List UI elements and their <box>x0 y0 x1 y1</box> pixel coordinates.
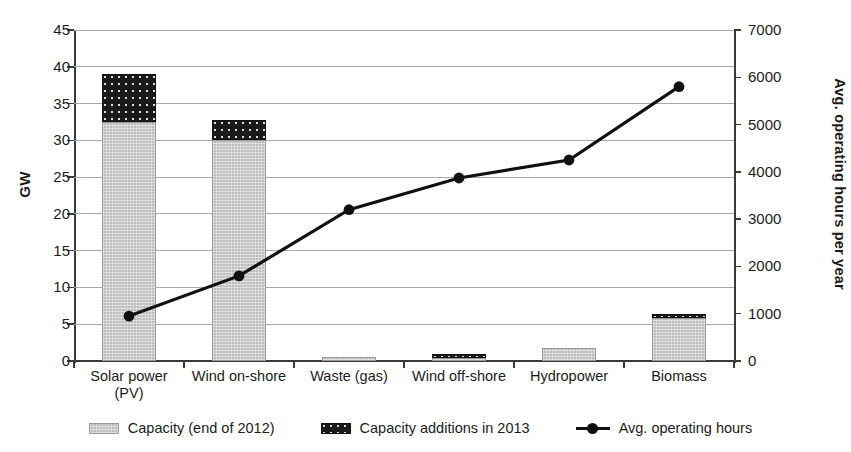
x-tick <box>513 361 515 368</box>
y-tick-right <box>734 218 741 220</box>
x-axis-category-label-line: Biomass <box>618 368 740 385</box>
x-axis-category-label-line: Solar power <box>68 368 190 385</box>
x-axis-category-label-line: Waste (gas) <box>288 368 410 385</box>
legend-swatch-add-icon <box>321 423 351 434</box>
x-tick <box>733 361 735 368</box>
x-tick <box>623 361 625 368</box>
y-tick-label-right: 6000 <box>748 69 851 84</box>
x-axis-category-label: Waste (gas) <box>288 368 410 385</box>
line-marker <box>344 204 355 215</box>
y-tick-label-left: 0 <box>0 353 70 368</box>
y-tick-right <box>734 29 741 31</box>
x-axis-category-label-line: Wind off-shore <box>398 368 520 385</box>
y-tick-right <box>734 77 741 79</box>
legend-swatch-line-icon <box>576 422 610 434</box>
chart-legend: Capacity (end of 2012)Capacity additions… <box>0 415 841 441</box>
y-tick-label-right: 7000 <box>748 22 851 37</box>
legend-swatch-base-icon <box>89 423 119 434</box>
plot-area: 051015202530354045 010002000300040005000… <box>74 30 734 361</box>
y-tick-label-left: 5 <box>0 316 70 331</box>
y-tick-label-right: 0 <box>748 353 851 368</box>
x-axis-category-label: Wind on-shore <box>178 368 300 385</box>
legend-label: Avg. operating hours <box>619 420 753 436</box>
y-tick-label-left: 35 <box>0 96 70 111</box>
x-tick <box>293 361 295 368</box>
y-tick-label-right: 4000 <box>748 164 851 179</box>
legend-label: Capacity additions in 2013 <box>360 420 530 436</box>
x-tick <box>183 361 185 368</box>
line-path <box>129 87 679 316</box>
line-series-avg-operating-hours <box>74 30 734 361</box>
y-tick-right <box>734 124 741 126</box>
x-axis-category-label: Biomass <box>618 368 740 385</box>
legend-item[interactable]: Capacity (end of 2012) <box>89 420 275 436</box>
x-axis-category-label-line: Wind on-shore <box>178 368 300 385</box>
y-tick-label-left: 10 <box>0 279 70 294</box>
y-tick-right <box>734 266 741 268</box>
y-tick-label-right: 2000 <box>748 258 851 273</box>
legend-item[interactable]: Capacity additions in 2013 <box>321 420 530 436</box>
line-marker <box>124 311 135 322</box>
x-tick <box>403 361 405 368</box>
x-axis-category-label-line: (PV) <box>68 385 190 402</box>
y-tick-label-left: 40 <box>0 59 70 74</box>
y-tick-label-left: 45 <box>0 22 70 37</box>
line-marker <box>674 81 685 92</box>
y-tick-label-left: 25 <box>0 169 70 184</box>
y-tick-label-left: 15 <box>0 243 70 258</box>
y-tick-right <box>734 360 741 362</box>
y-tick-label-right: 1000 <box>748 306 851 321</box>
line-marker <box>234 271 245 282</box>
y-tick-label-left: 30 <box>0 132 70 147</box>
y-tick-label-right: 3000 <box>748 211 851 226</box>
y-tick-right <box>734 171 741 173</box>
y-tick-right <box>734 313 741 315</box>
line-marker <box>564 155 575 166</box>
legend-label: Capacity (end of 2012) <box>128 420 275 436</box>
line-marker <box>454 173 465 184</box>
y-tick-label-left: 20 <box>0 206 70 221</box>
legend-item[interactable]: Avg. operating hours <box>576 420 753 436</box>
x-axis-category-label: Solar power(PV) <box>68 368 190 402</box>
x-axis-category-label: Hydropower <box>508 368 630 385</box>
y-tick-label-right: 5000 <box>748 117 851 132</box>
x-tick <box>73 361 75 368</box>
x-axis-category-label: Wind off-shore <box>398 368 520 385</box>
x-axis-category-label-line: Hydropower <box>508 368 630 385</box>
